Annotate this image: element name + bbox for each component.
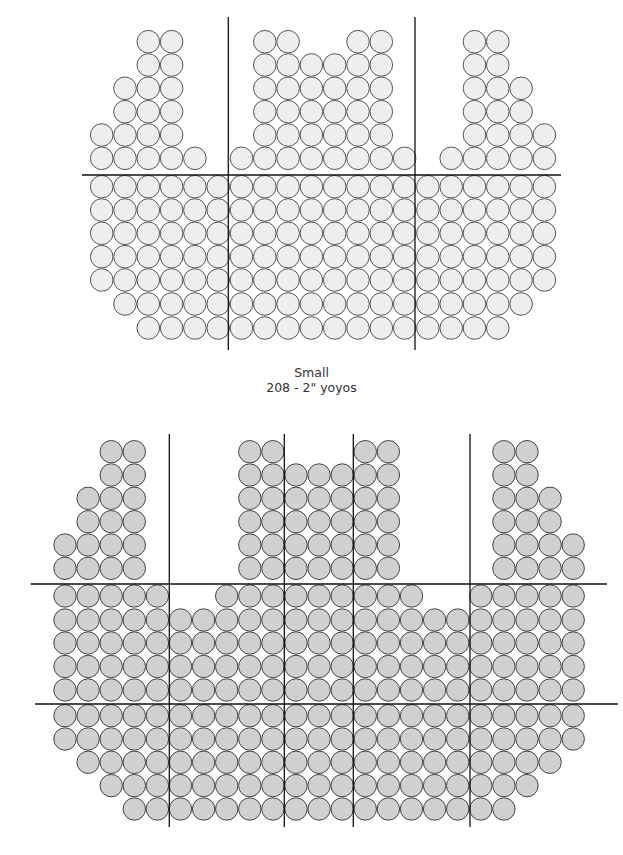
yoyo-circle <box>493 585 515 607</box>
yoyo-circle <box>239 557 261 579</box>
yoyo-circle <box>539 728 561 750</box>
yoyo-circle <box>470 798 492 820</box>
yoyo-circle <box>562 679 584 701</box>
yoyo-circles <box>54 441 585 821</box>
yoyo-circle <box>308 609 330 631</box>
yoyo-circle <box>137 199 160 222</box>
yoyo-circle <box>123 534 145 556</box>
yoyo-circle <box>377 585 399 607</box>
small-caption: Small 208 - 2" yoyos <box>0 365 623 395</box>
yoyo-circle <box>160 30 183 53</box>
yoyo-circle <box>539 679 561 701</box>
yoyo-circle <box>239 511 261 533</box>
small-caption-detail: 208 - 2" yoyos <box>0 380 623 395</box>
yoyo-circle <box>77 487 99 509</box>
yoyo-circle <box>323 124 346 147</box>
yoyo-circle <box>516 585 538 607</box>
yoyo-circle <box>137 100 160 123</box>
large-quilt-diagram <box>31 434 618 827</box>
yoyo-circle <box>285 534 307 556</box>
yoyo-circle <box>400 655 422 677</box>
yoyo-circle <box>377 679 399 701</box>
yoyo-circle <box>262 632 284 654</box>
yoyo-circle <box>262 441 284 463</box>
yoyo-circle <box>470 751 492 773</box>
yoyo-circle <box>207 293 230 316</box>
yoyo-circle <box>123 511 145 533</box>
yoyo-circle <box>192 798 214 820</box>
yoyo-circle <box>239 585 261 607</box>
yoyo-circle <box>114 245 137 268</box>
yoyo-circle <box>169 609 191 631</box>
yoyo-circle <box>146 655 168 677</box>
yoyo-circle <box>400 798 422 820</box>
yoyo-circle <box>146 728 168 750</box>
yoyo-circle <box>300 124 323 147</box>
yoyo-circle <box>114 269 137 292</box>
yoyo-circle <box>440 269 463 292</box>
yoyo-circle <box>160 317 183 340</box>
yoyo-circle <box>77 751 99 773</box>
yoyo-circle <box>510 222 533 245</box>
yoyo-circle <box>377 557 399 579</box>
yoyo-circle <box>447 774 469 796</box>
yoyo-circle <box>354 728 376 750</box>
yoyo-circle <box>347 269 370 292</box>
yoyo-circle <box>423 705 445 727</box>
yoyo-circle <box>100 632 122 654</box>
yoyo-circle <box>262 751 284 773</box>
yoyo-circle <box>114 175 137 198</box>
yoyo-circle <box>308 798 330 820</box>
yoyo-circle <box>347 317 370 340</box>
yoyo-circle <box>562 585 584 607</box>
yoyo-circle <box>331 609 353 631</box>
yoyo-circle <box>440 147 463 170</box>
yoyo-circle <box>137 30 160 53</box>
yoyo-circle <box>470 632 492 654</box>
yoyo-circle <box>207 199 230 222</box>
yoyo-circle <box>207 317 230 340</box>
yoyo-circle <box>207 245 230 268</box>
yoyo-circle <box>300 245 323 268</box>
yoyo-circle <box>354 798 376 820</box>
yoyo-circle <box>169 774 191 796</box>
yoyo-circle <box>216 751 238 773</box>
yoyo-circle <box>54 728 76 750</box>
yoyo-circle <box>54 557 76 579</box>
yoyo-circle <box>100 679 122 701</box>
yoyo-circle <box>262 679 284 701</box>
yoyo-circle <box>377 464 399 486</box>
yoyo-circle <box>239 609 261 631</box>
yoyo-circle <box>487 100 510 123</box>
yoyo-circle <box>377 705 399 727</box>
yoyo-circle <box>516 774 538 796</box>
yoyo-circle <box>123 609 145 631</box>
yoyo-circle <box>160 77 183 100</box>
yoyo-circle <box>377 511 399 533</box>
yoyo-circle <box>516 557 538 579</box>
yoyo-circle <box>285 798 307 820</box>
yoyo-circle <box>417 317 440 340</box>
yoyo-circle <box>123 464 145 486</box>
yoyo-circle <box>77 534 99 556</box>
yoyo-circle <box>487 124 510 147</box>
yoyo-circle <box>262 705 284 727</box>
yoyo-circle <box>308 728 330 750</box>
yoyo-circle <box>146 774 168 796</box>
yoyo-circle <box>54 679 76 701</box>
yoyo-circle <box>510 100 533 123</box>
yoyo-circle <box>192 774 214 796</box>
yoyo-circle <box>192 705 214 727</box>
yoyo-circle <box>277 222 300 245</box>
yoyo-circle <box>239 487 261 509</box>
yoyo-circle <box>370 54 393 77</box>
yoyo-circle <box>331 464 353 486</box>
yoyo-circle <box>216 705 238 727</box>
yoyo-circle <box>447 655 469 677</box>
yoyo-circle <box>400 609 422 631</box>
yoyo-circle <box>100 487 122 509</box>
yoyo-circle <box>192 655 214 677</box>
yoyo-circle <box>463 54 486 77</box>
yoyo-circle <box>192 632 214 654</box>
yoyo-circle <box>184 222 207 245</box>
